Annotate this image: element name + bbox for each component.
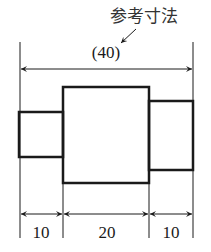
middle-shaft-section: [63, 87, 149, 183]
reference-dimension-label: 参考寸法: [110, 6, 178, 26]
overall-dimension-value: (40): [92, 43, 120, 62]
left-shaft-section: [19, 112, 63, 157]
right-shaft-section: [149, 101, 193, 170]
leader-arrow: [121, 29, 136, 43]
dimension-drawing: 参考寸法 (40) 10 20 10: [0, 0, 211, 252]
middle-dimension-value: 20: [99, 223, 116, 242]
left-dimension-value: 10: [33, 223, 50, 242]
right-dimension-value: 10: [163, 223, 180, 242]
